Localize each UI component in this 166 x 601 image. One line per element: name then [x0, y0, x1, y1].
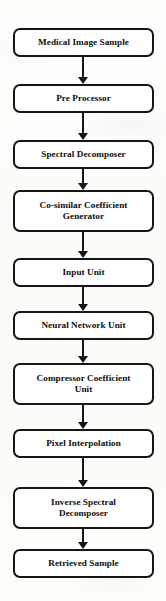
flow-node-co-similar-coefficient-generator[interactable]: Co-similar Coefficient Generator: [13, 190, 154, 232]
arrow-head-icon: [78, 422, 88, 429]
flow-node-label: Co-similar Coefficient Generator: [40, 200, 128, 223]
flow-arrow-2: [0, 113, 166, 140]
flow-node-compressor-coefficient-unit[interactable]: Compressor Coefficient Unit: [13, 363, 154, 405]
flow-node-input-unit[interactable]: Input Unit: [13, 258, 154, 287]
flow-node-label: Retrieved Sample: [48, 558, 118, 570]
flow-arrow-7: [0, 405, 166, 429]
flow-node-pre-processor[interactable]: Pre Processor: [13, 84, 154, 113]
arrow-shaft-icon: [82, 57, 84, 78]
flowchart-diagram: Medical Image SamplePre ProcessorSpectra…: [0, 0, 166, 601]
arrow-shaft-icon: [82, 169, 84, 184]
flow-node-label: Spectral Decomposer: [41, 149, 125, 161]
arrow-head-icon: [78, 183, 88, 190]
arrow-shaft-icon: [82, 232, 84, 252]
arrow-head-icon: [78, 356, 88, 363]
flow-arrow-6: [0, 340, 166, 363]
arrow-shaft-icon: [82, 458, 84, 481]
flow-node-inverse-spectral-decomposer[interactable]: Inverse Spectral Decomposer: [13, 487, 154, 529]
flow-node-label: Medical Image Sample: [38, 37, 129, 49]
arrow-head-icon: [78, 77, 88, 84]
flow-node-label: Pixel Interpolation: [46, 438, 121, 450]
flow-node-spectral-decomposer[interactable]: Spectral Decomposer: [13, 140, 154, 169]
flow-node-label: Neural Network Unit: [41, 320, 125, 332]
arrow-shaft-icon: [82, 113, 84, 134]
flow-arrow-5: [0, 287, 166, 311]
flow-arrow-4: [0, 232, 166, 258]
arrow-head-icon: [78, 304, 88, 311]
arrow-head-icon: [78, 251, 88, 258]
flow-arrow-9: [0, 529, 166, 549]
arrow-head-icon: [78, 480, 88, 487]
arrow-shaft-icon: [82, 405, 84, 423]
flow-node-medical-image-sample[interactable]: Medical Image Sample: [13, 28, 154, 57]
arrow-shaft-icon: [82, 529, 84, 543]
flow-node-neural-network-unit[interactable]: Neural Network Unit: [13, 311, 154, 340]
flow-arrow-3: [0, 169, 166, 190]
arrow-shaft-icon: [82, 287, 84, 305]
flow-node-pixel-interpolation[interactable]: Pixel Interpolation: [13, 429, 154, 458]
flow-arrow-8: [0, 458, 166, 487]
arrow-head-icon: [78, 542, 88, 549]
arrow-shaft-icon: [82, 340, 84, 357]
flow-node-label: Compressor Coefficient Unit: [37, 373, 131, 396]
arrow-head-icon: [78, 133, 88, 140]
flow-node-label: Pre Processor: [56, 93, 111, 105]
flow-node-retrieved-sample[interactable]: Retrieved Sample: [13, 549, 154, 578]
flow-node-label: Inverse Spectral Decomposer: [51, 497, 116, 520]
flow-node-label: Input Unit: [62, 267, 104, 279]
flow-arrow-1: [0, 57, 166, 84]
